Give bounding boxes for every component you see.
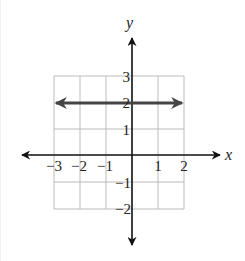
x-tick-label: 2 [180, 158, 188, 174]
y-tick-label: −1 [115, 175, 131, 191]
x-tick-label: −1 [97, 158, 113, 174]
x-axis-label: x [224, 146, 232, 163]
coordinate-plane: x y −3 −2 −1 1 2 3 2 1 −1 −2 [0, 0, 245, 261]
y-tick-label: 3 [123, 69, 131, 85]
y-tick-label: −2 [115, 201, 131, 217]
x-tick-label: −2 [71, 158, 87, 174]
y-axis-label: y [124, 14, 134, 32]
x-tick-label: 1 [154, 158, 162, 174]
y-tick-label: 1 [123, 122, 131, 138]
x-tick-label: −3 [46, 158, 62, 174]
y-tick-label: 2 [123, 95, 131, 111]
